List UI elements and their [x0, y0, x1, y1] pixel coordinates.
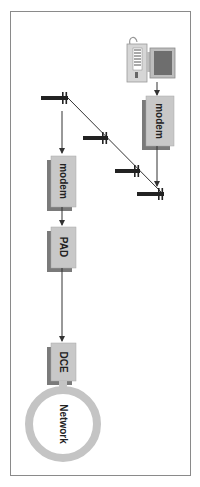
- modem-remote-label: modem: [154, 103, 165, 139]
- x25-connection-diagram: modem modem PAD: [0, 0, 200, 487]
- pad-label: PAD: [58, 237, 69, 257]
- modem-local-box: modem: [47, 156, 76, 211]
- dce-label: DCE: [58, 351, 69, 372]
- dce-box: DCE: [47, 343, 76, 385]
- line-junction-2: [83, 132, 108, 144]
- pad-box: PAD: [47, 227, 76, 272]
- network-label: Network: [58, 404, 69, 444]
- line-junction-4: [137, 188, 164, 200]
- modem-local-label: modem: [58, 163, 69, 199]
- line-junction-1: [41, 92, 68, 104]
- computer-icon: [127, 37, 175, 82]
- modem-remote-box: modem: [142, 96, 174, 150]
- network-ring: Network: [29, 390, 97, 458]
